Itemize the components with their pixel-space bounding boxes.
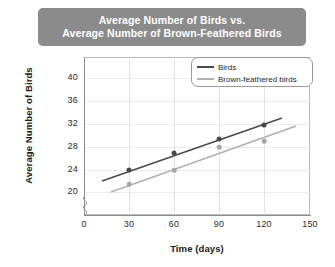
x-axis-line bbox=[84, 215, 311, 216]
x-tick-label: 90 bbox=[204, 219, 234, 229]
x-tick-label: 30 bbox=[114, 219, 144, 229]
data-point bbox=[262, 139, 267, 144]
chart-title-line-1: Average Number of Birds vs. bbox=[99, 14, 245, 27]
chart-legend: Birds Brown-feathered birds bbox=[191, 57, 313, 87]
gridline-y-36 bbox=[84, 101, 310, 102]
y-axis-label: Average Number of Birds bbox=[23, 56, 34, 196]
gridline-y-20 bbox=[84, 192, 310, 193]
axis-break-icon bbox=[76, 196, 94, 216]
gridline-x-30 bbox=[129, 57, 130, 215]
x-axis-label: Time (days) bbox=[84, 243, 310, 254]
x-tick-label: 60 bbox=[159, 219, 189, 229]
data-point bbox=[217, 137, 222, 142]
y-axis-line bbox=[84, 57, 85, 215]
gridline-y-24 bbox=[84, 170, 310, 171]
legend-item-brown-feathered-birds: Brown-feathered birds bbox=[197, 73, 312, 85]
data-point bbox=[262, 123, 267, 128]
data-point bbox=[127, 182, 132, 187]
data-point bbox=[172, 168, 177, 173]
x-tick-label: 0 bbox=[69, 219, 99, 229]
x-tick-label: 150 bbox=[295, 219, 325, 229]
y-tick-label: 36 bbox=[52, 95, 78, 105]
data-point bbox=[217, 145, 222, 150]
y-tick-label: 40 bbox=[52, 72, 78, 82]
legend-label: Birds bbox=[218, 63, 236, 72]
y-tick-label: 20 bbox=[52, 186, 78, 196]
legend-label: Brown-feathered birds bbox=[218, 75, 297, 84]
gridline-y-28 bbox=[84, 147, 310, 148]
legend-swatch-icon bbox=[197, 66, 214, 68]
chart-figure: Average Number of Birds vs. Average Numb… bbox=[0, 0, 335, 267]
y-tick-label: 24 bbox=[52, 164, 78, 174]
y-tick-label: 32 bbox=[52, 118, 78, 128]
data-point bbox=[127, 168, 132, 173]
legend-item-birds: Birds bbox=[197, 61, 312, 73]
data-point bbox=[172, 151, 177, 156]
chart-title-banner: Average Number of Birds vs. Average Numb… bbox=[38, 8, 306, 46]
gridline-y-32 bbox=[84, 124, 310, 125]
y-tick-label: 28 bbox=[52, 141, 78, 151]
x-tick-label: 120 bbox=[249, 219, 279, 229]
gridline-x-60 bbox=[174, 57, 175, 215]
chart-title-line-2: Average Number of Brown-Feathered Birds bbox=[62, 27, 281, 40]
legend-swatch-icon bbox=[197, 78, 214, 80]
